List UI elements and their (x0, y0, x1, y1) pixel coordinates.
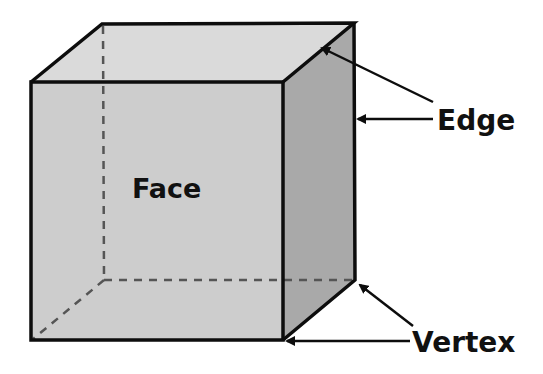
vertex-arrow-diagonal (360, 285, 413, 326)
cube-diagram: Face Edge Vertex (0, 0, 543, 374)
front-face (31, 82, 283, 340)
vertex-label: Vertex (412, 326, 515, 359)
edge-label: Edge (437, 104, 515, 137)
face-label: Face (132, 173, 201, 204)
